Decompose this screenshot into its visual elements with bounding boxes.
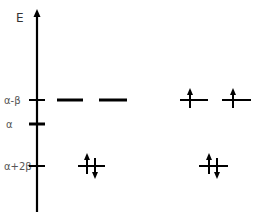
energy-axis-label: E [16, 11, 24, 25]
right-orbital-diagram [180, 88, 251, 179]
level-label-alpha: α [6, 119, 13, 130]
electron-up-icon [230, 88, 236, 108]
energy-level-diagram: E α-β α α+2β [0, 0, 258, 216]
level-label-alpha-minus-beta: α-β [4, 95, 21, 106]
left-orbital-diagram [57, 100, 127, 179]
level-label-alpha-plus-2beta: α+2β [4, 161, 32, 172]
axis-arrow-icon [34, 9, 41, 17]
electron-up-icon [187, 88, 193, 108]
energy-axis [34, 9, 41, 212]
